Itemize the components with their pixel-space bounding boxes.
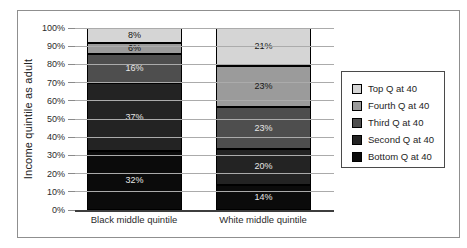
legend-label: Third Q at 40 (368, 117, 423, 128)
data-label: 23% (254, 82, 272, 91)
y-tick-mark (68, 191, 75, 192)
data-label: 14% (254, 193, 272, 202)
x-axis: Black middle quintile White middle quint… (75, 214, 334, 228)
y-tick-mark (68, 155, 75, 156)
y-tick-label: 60% (47, 96, 65, 106)
plot-area: 32%37%16%6%8% 14%20%23%23%21% (75, 28, 334, 212)
gridline (75, 119, 334, 120)
bar-segment: 32% (87, 151, 182, 210)
legend-item: Top Q at 40 (352, 80, 440, 97)
y-tick-label: 50% (47, 114, 65, 124)
legend: Top Q at 40Fourth Q at 40Third Q at 40Se… (341, 71, 445, 168)
legend-label: Second Q at 40 (368, 134, 434, 145)
bar-segment: 6% (87, 43, 182, 54)
bar-segment: 23% (216, 107, 311, 148)
y-tick-label: 40% (47, 132, 65, 142)
y-tick-mark (68, 173, 75, 174)
data-label: 21% (254, 42, 272, 51)
category-label: Black middle quintile (64, 214, 204, 225)
gridline (75, 137, 334, 138)
y-tick-mark (68, 82, 75, 83)
y-tick-mark (68, 46, 75, 47)
y-tick-mark (68, 100, 75, 101)
y-tick-label: 80% (47, 59, 65, 69)
y-tick-label: 70% (47, 78, 65, 88)
data-label: 32% (125, 176, 143, 185)
legend-swatch (352, 84, 362, 94)
data-label: 8% (128, 31, 141, 40)
legend-label: Bottom Q at 40 (368, 151, 432, 162)
legend-swatch (352, 101, 362, 111)
gridline (75, 82, 334, 83)
y-tick-mark (68, 64, 75, 65)
bar-segment: 16% (87, 54, 182, 83)
chart-frame: Income quintile as adult 0%10%20%30%40%5… (17, 10, 460, 238)
bar-segment: 8% (87, 28, 182, 43)
gridline (75, 46, 334, 47)
legend-swatch (352, 152, 362, 162)
legend-swatch (352, 118, 362, 128)
gridline (75, 100, 334, 101)
data-label: 20% (254, 162, 272, 171)
legend-label: Top Q at 40 (368, 83, 417, 94)
y-tick-label: 100% (42, 23, 65, 33)
gridline (75, 191, 334, 192)
y-tick-label: 20% (47, 169, 65, 179)
y-tick-label: 10% (47, 187, 65, 197)
bar-segment: 37% (87, 83, 182, 151)
bar-segment: 14% (216, 185, 311, 210)
y-axis: 0%10%20%30%40%50%60%70%80%90%100% (18, 28, 75, 210)
gridline (75, 155, 334, 156)
y-tick-mark (68, 28, 75, 29)
legend-item: Fourth Q at 40 (352, 97, 440, 114)
legend-item: Third Q at 40 (352, 114, 440, 131)
data-label: 37% (125, 113, 143, 122)
chart-screenshot: { "figure": { "background": "#ffffff", "… (0, 0, 467, 248)
y-tick-label: 30% (47, 150, 65, 160)
y-tick-mark (68, 119, 75, 120)
gridline (75, 64, 334, 65)
y-tick-label: 90% (47, 41, 65, 51)
legend-item: Second Q at 40 (352, 131, 440, 148)
legend-item: Bottom Q at 40 (352, 148, 440, 165)
bar-segment: 21% (216, 28, 311, 66)
legend-swatch (352, 135, 362, 145)
legend-label: Fourth Q at 40 (368, 100, 429, 111)
data-label: 23% (254, 124, 272, 133)
gridline (75, 173, 334, 174)
data-label: 16% (125, 64, 143, 73)
category-label: White middle quintile (193, 214, 333, 225)
y-tick-mark (68, 210, 75, 211)
y-tick-mark (68, 137, 75, 138)
gridline (75, 28, 334, 29)
